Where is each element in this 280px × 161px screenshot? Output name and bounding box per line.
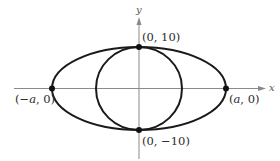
x-axis-arrow-icon [258, 86, 266, 91]
label-right: (a, 0) [229, 92, 259, 106]
point-bottom [136, 127, 142, 133]
point-right [223, 86, 229, 92]
y-axis: y [135, 4, 142, 159]
label-bottom: (0, −10) [142, 134, 190, 148]
x-axis-label: x [269, 82, 275, 93]
y-axis-arrow-icon [137, 17, 142, 25]
ellipse-circle-diagram: x y (0, 10) (0, −10) (−a, 0) (a, 0) [0, 0, 280, 161]
point-top [136, 44, 142, 50]
point-left [49, 86, 55, 92]
label-top: (0, 10) [142, 30, 180, 44]
label-left: (−a, 0) [15, 92, 55, 106]
y-axis-label: y [135, 4, 142, 15]
